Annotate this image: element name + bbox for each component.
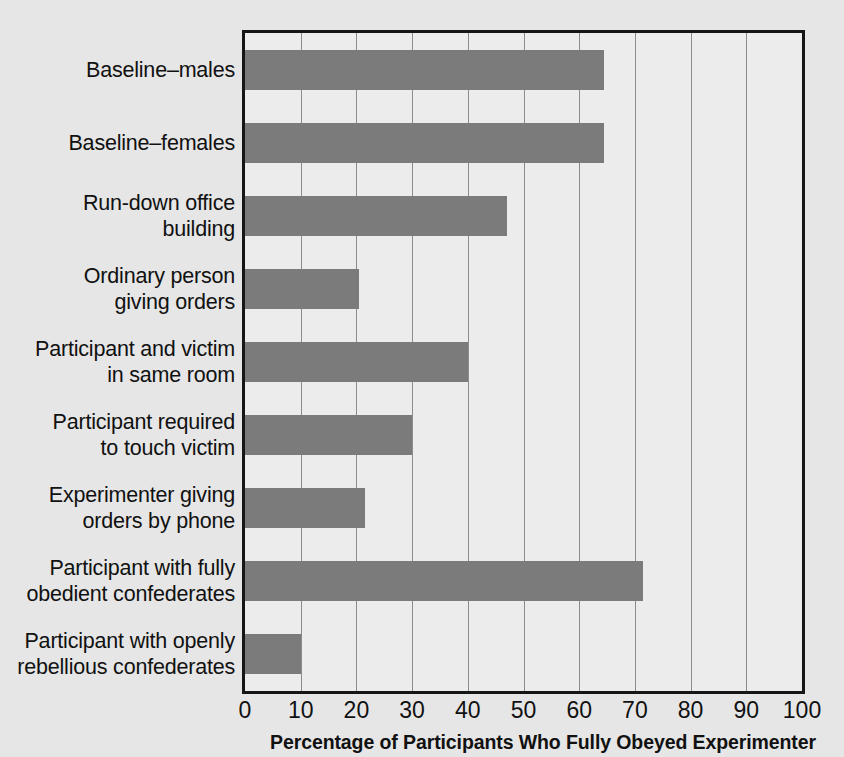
x-axis-title: Percentage of Participants Who Fully Obe…: [242, 731, 844, 754]
x-tick-label: 0: [239, 697, 252, 724]
bar: [245, 123, 604, 163]
category-label-line: Ordinary person: [0, 263, 235, 289]
category-label-line: rebellious confederates: [0, 654, 235, 680]
bars-layer: [245, 33, 802, 691]
plot-area: [242, 30, 805, 694]
category-label: Baseline–males: [0, 57, 235, 83]
x-tick-label: 100: [783, 697, 821, 724]
x-tick-label: 60: [566, 697, 592, 724]
category-label: Baseline–females: [0, 130, 235, 156]
category-label-line: Baseline–females: [0, 130, 235, 156]
category-label-line: Participant with fully: [0, 555, 235, 581]
category-label-line: in same room: [0, 362, 235, 388]
bar: [245, 269, 359, 309]
category-label-line: building: [0, 216, 235, 242]
bar: [245, 342, 468, 382]
x-tick-label: 10: [288, 697, 314, 724]
category-label: Participant requiredto touch victim: [0, 409, 235, 461]
category-label-line: Participant required: [0, 409, 235, 435]
bar: [245, 50, 604, 90]
category-label-line: obedient confederates: [0, 581, 235, 607]
x-tick-label: 40: [455, 697, 481, 724]
x-tick-label: 20: [344, 697, 370, 724]
category-axis-labels: Baseline–malesBaseline–femalesRun-down o…: [0, 30, 235, 694]
category-label: Run-down officebuilding: [0, 190, 235, 242]
x-tick-label: 90: [734, 697, 760, 724]
bar: [245, 634, 301, 674]
category-label: Participant and victimin same room: [0, 336, 235, 388]
category-label-line: Baseline–males: [0, 57, 235, 83]
category-label: Experimenter givingorders by phone: [0, 482, 235, 534]
x-axis-tick-labels: 0102030405060708090100: [242, 697, 805, 729]
category-label-line: giving orders: [0, 289, 235, 315]
bar: [245, 488, 365, 528]
category-label: Participant with openlyrebellious confed…: [0, 628, 235, 680]
category-label-line: Run-down office: [0, 190, 235, 216]
x-tick-label: 50: [511, 697, 537, 724]
x-tick-label: 70: [622, 697, 648, 724]
category-label-line: orders by phone: [0, 508, 235, 534]
bar: [245, 196, 507, 236]
category-label-line: to touch victim: [0, 435, 235, 461]
x-tick-label: 80: [678, 697, 704, 724]
x-tick-label: 30: [399, 697, 425, 724]
category-label: Ordinary persongiving orders: [0, 263, 235, 315]
category-label-line: Participant and victim: [0, 336, 235, 362]
category-label-line: Participant with openly: [0, 628, 235, 654]
category-label-line: Experimenter giving: [0, 482, 235, 508]
bar: [245, 415, 412, 455]
bar: [245, 561, 643, 601]
bar-chart: Baseline–malesBaseline–femalesRun-down o…: [0, 0, 844, 757]
category-label: Participant with fullyobedient confedera…: [0, 555, 235, 607]
